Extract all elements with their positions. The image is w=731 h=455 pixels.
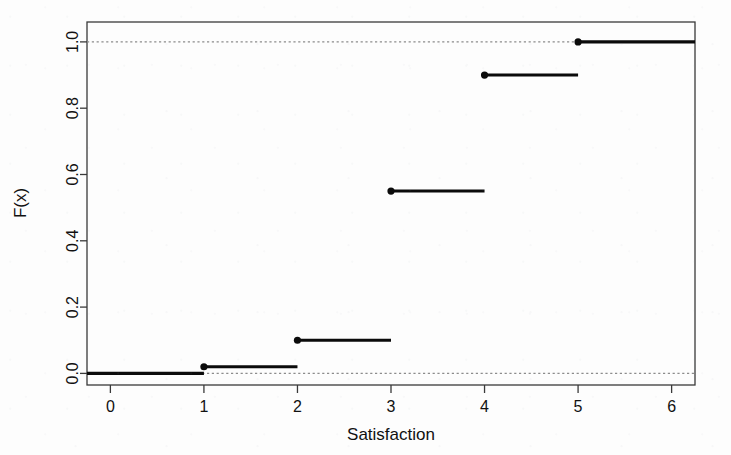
step-point-5: [574, 38, 581, 45]
step-point-2: [294, 337, 301, 344]
x-axis-title: Satisfaction: [347, 425, 435, 444]
x-tick-label-4: 4: [480, 398, 489, 415]
chart-canvas: 0.00.20.40.60.81.0 0123456 Satisfaction …: [0, 0, 731, 455]
x-tick-label-5: 5: [574, 398, 583, 415]
y-tick-label-1.0: 1.0: [65, 31, 82, 53]
chart-background: [0, 0, 731, 455]
x-tick-label-3: 3: [387, 398, 396, 415]
x-tick-label-0: 0: [106, 398, 115, 415]
y-tick-label-0.6: 0.6: [65, 163, 82, 185]
step-point-1: [200, 363, 207, 370]
y-tick-label-0.4: 0.4: [65, 230, 82, 252]
y-tick-label-0.8: 0.8: [65, 97, 82, 119]
y-tick-label-0.2: 0.2: [65, 296, 82, 318]
step-point-3: [387, 187, 394, 194]
ecdf-chart: 0.00.20.40.60.81.0 0123456 Satisfaction …: [0, 0, 731, 455]
y-tick-label-0.0: 0.0: [65, 362, 82, 384]
y-axis-title: F(x): [11, 188, 30, 218]
x-tick-label-1: 1: [199, 398, 208, 415]
x-tick-label-2: 2: [293, 398, 302, 415]
x-tick-label-6: 6: [667, 398, 676, 415]
step-point-4: [481, 71, 488, 78]
